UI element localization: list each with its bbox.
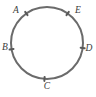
tick-mark-b bbox=[10, 49, 14, 50]
point-label-c: C bbox=[44, 81, 51, 91]
tick-mark-d bbox=[81, 48, 85, 49]
circle-diagram-canvas: AEDCB bbox=[0, 0, 96, 97]
point-label-b: B bbox=[2, 42, 8, 52]
point-label-a: A bbox=[12, 5, 19, 15]
point-label-e: E bbox=[74, 5, 81, 15]
geometry-figure: AEDCB bbox=[0, 0, 96, 97]
point-label-d: D bbox=[85, 43, 93, 53]
